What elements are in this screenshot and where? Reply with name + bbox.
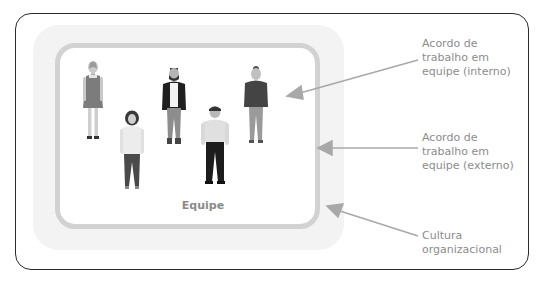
team-label: Equipe (168, 199, 238, 212)
annotation-external-agreement: Acordo de trabalho em equipe (externo) (422, 131, 514, 173)
person-man-jacket-icon (160, 66, 188, 148)
annotation-line: Acordo de (422, 37, 511, 51)
annotation-line: equipe (externo) (422, 159, 514, 173)
person-woman-dress-icon (80, 60, 106, 142)
annotation-line: trabalho em (422, 145, 514, 159)
person-woman-white-top-icon (118, 110, 146, 192)
annotation-organizational-culture: Cultura organizacional (422, 229, 502, 257)
person-man-white-shirt-icon (200, 104, 230, 186)
person-woman-dark-sweater-icon (242, 65, 270, 147)
annotation-line: organizacional (422, 243, 502, 257)
annotation-line: equipe (interno) (422, 65, 511, 79)
annotation-line: Acordo de (422, 131, 514, 145)
annotation-line: Cultura (422, 229, 502, 243)
annotation-line: trabalho em (422, 51, 511, 65)
annotation-internal-agreement: Acordo de trabalho em equipe (interno) (422, 37, 511, 79)
